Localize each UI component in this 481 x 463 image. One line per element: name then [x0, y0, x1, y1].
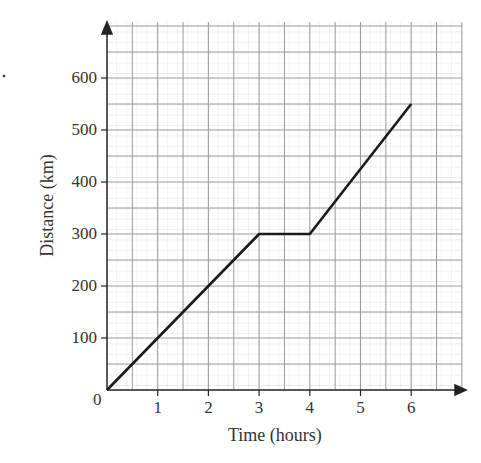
x-tick-label: 5 — [351, 398, 371, 418]
x-tick-label: 6 — [401, 398, 421, 418]
y-tick-label: 100 — [57, 328, 97, 348]
x-axis-label: Time (hours) — [228, 425, 322, 446]
y-tick-label: 400 — [57, 172, 97, 192]
x-tick-label: 1 — [148, 398, 168, 418]
y-tick-label: 300 — [57, 224, 97, 244]
origin-label: 0 — [93, 390, 102, 410]
x-tick-label: 2 — [198, 398, 218, 418]
y-tick-label: 200 — [57, 276, 97, 296]
x-tick-label: 4 — [300, 398, 320, 418]
y-axis-label: Distance (km) — [37, 141, 58, 271]
stray-dot — [3, 75, 6, 78]
y-tick-label: 500 — [57, 120, 97, 140]
y-tick-label: 600 — [57, 68, 97, 88]
x-tick-label: 3 — [249, 398, 269, 418]
